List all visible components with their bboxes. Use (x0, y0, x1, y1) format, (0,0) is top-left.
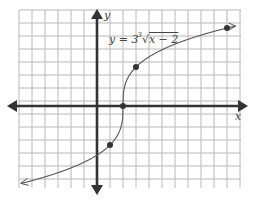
x-axis-label: x (235, 110, 241, 123)
data-point (133, 64, 139, 70)
data-point (107, 142, 113, 148)
y-axis-label: y (104, 9, 110, 22)
equation-label: y = 33√x − 2 (109, 31, 178, 46)
data-point (120, 103, 126, 109)
